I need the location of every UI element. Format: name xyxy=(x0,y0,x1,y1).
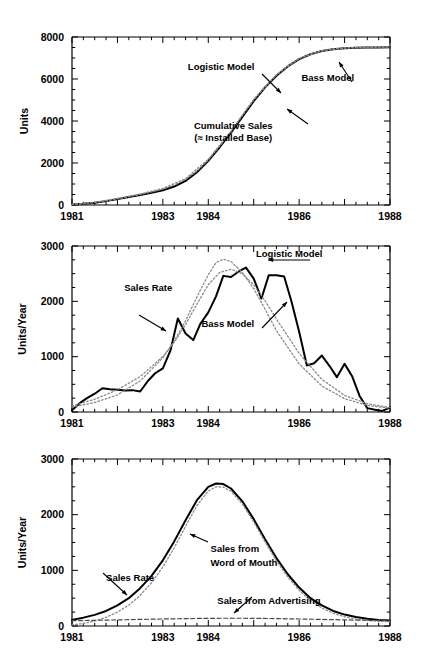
arrow-head xyxy=(339,62,344,68)
annotation-label: Bass Model xyxy=(201,318,254,329)
y-tick-label: 0 xyxy=(58,406,64,418)
annotations-top: Logistic ModelBass ModelCumulative Sales… xyxy=(188,61,354,143)
y-tick-label: 1000 xyxy=(41,350,65,362)
arrow-head xyxy=(287,109,292,114)
series-sales-rate xyxy=(72,268,390,411)
x-tick-label: 1983 xyxy=(151,210,175,222)
y-axis-title: Units/Year xyxy=(16,303,28,354)
annotation-label: Word of Mouth xyxy=(211,557,278,568)
x-tick-label: 1986 xyxy=(287,417,311,429)
arrow-head xyxy=(190,534,196,538)
tick-labels-middle: 198119831984198619880100020003000 xyxy=(41,240,402,429)
y-tick-label: 1000 xyxy=(41,564,65,576)
y-tick-label: 0 xyxy=(58,620,64,632)
y-tick-label: 6000 xyxy=(41,73,65,85)
annotation-label: Logistic Model xyxy=(188,61,255,72)
series-bass-model xyxy=(72,269,390,407)
y-tick-label: 2000 xyxy=(41,508,65,520)
x-tick-label: 1988 xyxy=(378,210,402,222)
series-sales-from-advertising xyxy=(72,618,390,621)
chart-panel-sales-rate: 198119831984198619880100020003000Units/Y… xyxy=(0,228,428,448)
x-tick-label: 1984 xyxy=(197,631,221,643)
chart-svg-middle: 198119831984198619880100020003000Units/Y… xyxy=(0,228,428,448)
annotation-label: Sales from xyxy=(211,543,260,554)
y-tick-label: 3000 xyxy=(41,240,65,252)
x-tick-label: 1986 xyxy=(287,210,311,222)
x-tick-label: 1983 xyxy=(151,417,175,429)
x-tick-label: 1984 xyxy=(197,210,221,222)
annotation-label: (≈ Installed Base) xyxy=(194,132,272,143)
x-tick-label: 1981 xyxy=(60,631,84,643)
series-group-middle xyxy=(72,259,390,411)
x-tick-label: 1981 xyxy=(60,210,84,222)
y-axis-title: Units xyxy=(18,108,30,134)
chart-svg-bottom: 198119831984198619880100020003000Units/Y… xyxy=(0,443,428,665)
y-axis-title: Units/Year xyxy=(16,517,28,568)
x-tick-label: 1988 xyxy=(378,417,402,429)
y-tick-label: 3000 xyxy=(41,453,65,465)
y-tick-label: 2000 xyxy=(41,295,65,307)
y-tick-label: 4000 xyxy=(41,115,65,127)
annotation-label: Sales Rate xyxy=(124,282,172,293)
annotation-label: Cumulative Sales xyxy=(194,120,273,131)
annotation-label: Logistic Model xyxy=(256,248,323,259)
chart-svg-top: 1981198319841986198802000400060008000Uni… xyxy=(0,0,428,228)
chart-panel-cumulative-sales: 1981198319841986198802000400060008000Uni… xyxy=(0,0,428,228)
y-tick-label: 8000 xyxy=(41,31,65,43)
y-tick-label: 2000 xyxy=(41,157,65,169)
x-tick-label: 1986 xyxy=(287,631,311,643)
chart-panel-sales-decomposition: 198119831984198619880100020003000Units/Y… xyxy=(0,443,428,665)
x-tick-label: 1984 xyxy=(197,417,221,429)
arrow-head xyxy=(160,327,166,331)
x-tick-label: 1983 xyxy=(151,631,175,643)
series-logistic-model xyxy=(72,259,390,408)
x-tick-label: 1988 xyxy=(378,631,402,643)
x-tick-label: 1981 xyxy=(60,417,84,429)
annotation-label: Sales from Advertising xyxy=(217,595,320,606)
figure-diffusion-model-charts: 1981198319841986198802000400060008000Uni… xyxy=(0,0,428,665)
y-tick-label: 0 xyxy=(58,199,64,211)
